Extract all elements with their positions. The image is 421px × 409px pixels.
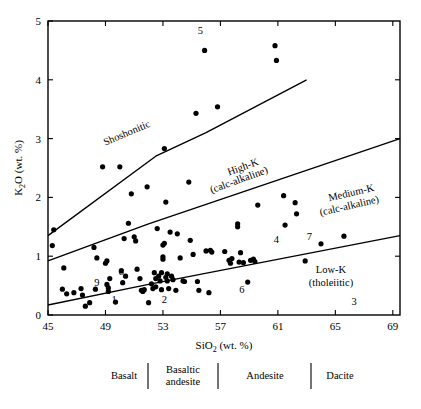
data-point bbox=[241, 260, 246, 265]
rock-label-basalt: Basalt bbox=[111, 370, 137, 381]
data-point bbox=[87, 300, 92, 305]
data-point bbox=[252, 259, 257, 264]
annotation-2: 2 bbox=[162, 294, 167, 305]
data-point bbox=[209, 249, 214, 254]
medium-k-low-k-boundary bbox=[48, 236, 400, 305]
y-tick-label-4: 4 bbox=[36, 74, 42, 86]
field-label-high-k: High-K (calc-alkaline) bbox=[208, 156, 270, 196]
top-axis-ticks bbox=[48, 21, 393, 26]
data-point bbox=[152, 270, 157, 275]
data-point bbox=[149, 281, 154, 286]
data-point bbox=[303, 258, 308, 263]
data-point bbox=[235, 224, 240, 229]
data-point bbox=[137, 276, 142, 281]
data-point bbox=[94, 255, 99, 260]
x-tick-label-69: 69 bbox=[387, 320, 399, 332]
data-point bbox=[186, 180, 191, 185]
data-point bbox=[165, 278, 170, 283]
rock-label-andesite: Andesite bbox=[246, 370, 284, 381]
annotation-4: 4 bbox=[274, 234, 280, 245]
annotation-7: 7 bbox=[307, 231, 312, 242]
rock-label-basaltic-andesite-line1: Basaltic bbox=[166, 364, 200, 375]
data-point bbox=[238, 250, 243, 255]
data-point bbox=[293, 200, 298, 205]
y-axis-tick-labels: 012345 bbox=[36, 15, 42, 321]
data-point bbox=[173, 288, 178, 293]
data-point bbox=[146, 300, 151, 305]
low-k-label-line2: (tholeiitic) bbox=[309, 277, 354, 289]
data-point bbox=[83, 304, 88, 309]
plot-canvas: 45495357616569 012345 589124763 Shoshoni… bbox=[0, 0, 421, 409]
x-tick-label-53: 53 bbox=[157, 320, 169, 332]
y-tick-label-5: 5 bbox=[36, 15, 42, 27]
low-k-label-line1: Low-K bbox=[316, 264, 347, 275]
data-point bbox=[155, 226, 160, 231]
field-label-low-k: Low-K (tholeiitic) bbox=[309, 264, 354, 289]
data-point bbox=[91, 245, 96, 250]
annotation-6: 6 bbox=[239, 284, 244, 295]
data-point bbox=[117, 164, 122, 169]
data-point bbox=[168, 229, 173, 234]
data-point bbox=[100, 164, 105, 169]
shoshonitic-label: Shoshonitic bbox=[102, 118, 152, 148]
right-axis-ticks bbox=[395, 80, 400, 256]
x-title-main: SiO bbox=[196, 339, 213, 351]
data-point bbox=[182, 279, 187, 284]
annotation-5: 5 bbox=[198, 25, 203, 36]
data-point bbox=[195, 279, 200, 284]
x-tick-label-57: 57 bbox=[215, 320, 227, 332]
data-point bbox=[145, 184, 150, 189]
data-point bbox=[78, 286, 83, 291]
data-point bbox=[255, 202, 260, 207]
svg-text:K2O (wt. %): K2O (wt. %) bbox=[12, 140, 27, 196]
data-point bbox=[122, 236, 127, 241]
x-tick-label-61: 61 bbox=[272, 320, 283, 332]
x-tick-label-45: 45 bbox=[43, 320, 55, 332]
y-tick-label-1: 1 bbox=[36, 250, 42, 262]
data-point bbox=[104, 258, 109, 263]
data-point bbox=[50, 243, 55, 248]
data-point bbox=[64, 291, 69, 296]
x-tick-label-65: 65 bbox=[330, 320, 342, 332]
field-label-medium-k: Medium-K (calc-alkaline) bbox=[318, 182, 380, 219]
data-point bbox=[272, 43, 277, 48]
data-point bbox=[196, 288, 201, 293]
data-point bbox=[159, 287, 164, 292]
rock-label-dacite: Dacite bbox=[326, 370, 354, 381]
y-tick-label-3: 3 bbox=[36, 133, 42, 145]
data-point bbox=[191, 252, 196, 257]
data-point bbox=[206, 290, 211, 295]
data-point bbox=[129, 191, 134, 196]
annotation-9: 9 bbox=[94, 277, 99, 288]
data-point bbox=[163, 200, 168, 205]
data-point bbox=[294, 211, 299, 216]
data-point bbox=[126, 221, 131, 226]
data-point bbox=[228, 261, 233, 266]
k2o-sio2-classification-figure: 45495357616569 012345 589124763 Shoshoni… bbox=[0, 0, 421, 409]
data-point bbox=[175, 231, 180, 236]
data-point bbox=[318, 241, 323, 246]
data-point bbox=[80, 292, 85, 297]
data-point bbox=[215, 104, 220, 109]
data-point bbox=[282, 222, 287, 227]
annotation-8: 8 bbox=[119, 266, 124, 277]
annotation-1: 1 bbox=[111, 294, 116, 305]
rock-classification-bar: Basalt Basaltic andesite Andesite Dacite bbox=[111, 363, 354, 389]
field-label-shoshonitic: Shoshonitic bbox=[102, 118, 152, 148]
data-point bbox=[134, 267, 139, 272]
data-point bbox=[170, 277, 175, 282]
annotation-3: 3 bbox=[351, 296, 356, 307]
data-point bbox=[202, 48, 207, 53]
y-title-tail: O (wt. %) bbox=[12, 140, 25, 184]
data-point bbox=[51, 227, 56, 232]
data-point bbox=[178, 255, 183, 260]
x-tick-label-49: 49 bbox=[100, 320, 112, 332]
data-point bbox=[159, 270, 164, 275]
data-point bbox=[162, 241, 167, 246]
y-tick-label-0: 0 bbox=[36, 309, 42, 321]
x-axis-tick-labels: 45495357616569 bbox=[43, 320, 399, 332]
data-point bbox=[274, 58, 279, 63]
x-title-tail: (wt. %) bbox=[217, 339, 253, 352]
data-point bbox=[61, 265, 66, 270]
y-tick-label-2: 2 bbox=[36, 191, 42, 203]
